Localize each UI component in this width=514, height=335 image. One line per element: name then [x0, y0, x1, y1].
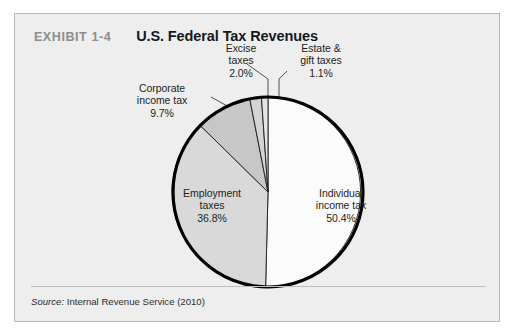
- pie-label-individual-income-tax: Individual income tax 50.4%: [283, 187, 399, 224]
- pie-label-corporate-line1: Corporate: [139, 82, 185, 94]
- footer-divider: [31, 286, 486, 287]
- pie-label-corporate-income-tax: Corporate income tax 9.7%: [114, 82, 210, 119]
- pie-label-corporate-line2: income tax: [137, 94, 187, 106]
- exhibit-panel: EXHIBIT 1-4 U.S. Federal Tax Revenues: [14, 13, 500, 322]
- pie-label-excise-line1: Excise: [226, 42, 257, 54]
- source-value: Internal Revenue Service (2010): [67, 296, 205, 307]
- pie-label-excise-taxes: Excise taxes 2.0%: [211, 42, 271, 79]
- pie-label-estate-gift-taxes: Estate & gift taxes 1.1%: [279, 42, 363, 79]
- pie-value-employment-taxes: 36.8%: [152, 212, 272, 224]
- pie-value-estate-gift-taxes: 1.1%: [279, 67, 363, 79]
- pie-label-estate-line1: Estate &: [301, 42, 340, 54]
- pie-label-individual-line1: Individual: [319, 187, 363, 199]
- pie-label-individual-line2: income tax: [316, 199, 366, 211]
- source-note: Source: Internal Revenue Service (2010): [31, 296, 205, 307]
- pie-label-employment-line2: taxes: [200, 199, 225, 211]
- pie-label-excise-line2: taxes: [229, 54, 254, 66]
- pie-label-estate-line2: gift taxes: [300, 54, 342, 66]
- pie-value-excise-taxes: 2.0%: [211, 67, 271, 79]
- pie-value-individual-income-tax: 50.4%: [283, 212, 399, 224]
- pie-label-employment-line1: Employment: [183, 187, 241, 199]
- pie-chart: Corporate income tax 9.7% Excise taxes 2…: [15, 14, 501, 323]
- pie-value-corporate-income-tax: 9.7%: [114, 107, 210, 119]
- pie-label-employment-taxes: Employment taxes 36.8%: [152, 187, 272, 224]
- source-label: Source:: [31, 296, 64, 307]
